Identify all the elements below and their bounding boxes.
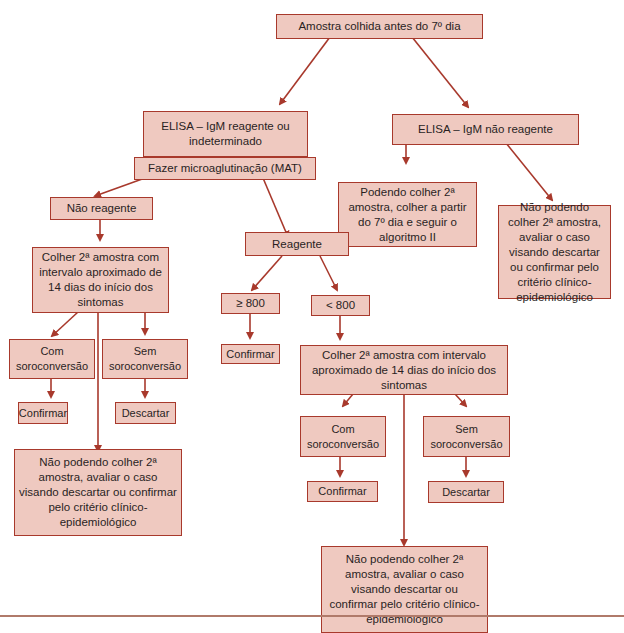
node-ge800: ≥ 800 [221, 293, 280, 314]
node-com-soro-left: Com soroconversão [9, 339, 95, 379]
node-nao-podendo-right: Não podendo colher 2ª amostra, avaliar o… [498, 205, 611, 299]
footer-divider [0, 615, 624, 617]
node-confirmar-right: Confirmar [307, 481, 378, 502]
node-descartar-left: Descartar [115, 402, 176, 424]
node-nao-podendo-left: Não podendo colher 2ª amostra, avaliar o… [14, 449, 182, 536]
node-start: Amostra colhida antes do 7º dia [276, 14, 483, 39]
node-colher-left: Colher 2ª amostra com intervalo aproxima… [32, 247, 169, 313]
node-nao-reagente: Não reagente [50, 197, 153, 220]
node-sem-soro-left: Sem soroconversão [102, 339, 188, 379]
node-elisa-reagente: ELISA – IgM reagente ou indeterminado [143, 111, 308, 157]
node-confirmar-ge800: Confirmar [221, 344, 280, 364]
node-com-soro-right: Com soroconversão [300, 416, 386, 457]
node-nao-podendo-bottom: Não podendo colher 2ª amostra, avaliar o… [321, 546, 488, 633]
node-mat: Fazer microaglutinação (MAT) [134, 157, 316, 180]
node-sem-soro-right: Sem soroconversão [423, 416, 510, 457]
node-reagente: Reagente [245, 232, 349, 256]
node-colher-right: Colher 2ª amostra com intervalo aproxima… [300, 345, 508, 395]
node-elisa-nao-reagente: ELISA – IgM não reagente [392, 114, 579, 145]
node-descartar-right: Descartar [428, 481, 504, 503]
node-lt800: < 800 [311, 295, 370, 316]
node-podendo-colher: Podendo colher 2ª amostra, colher a part… [338, 182, 477, 247]
node-confirmar-left: Confirmar [18, 402, 68, 424]
